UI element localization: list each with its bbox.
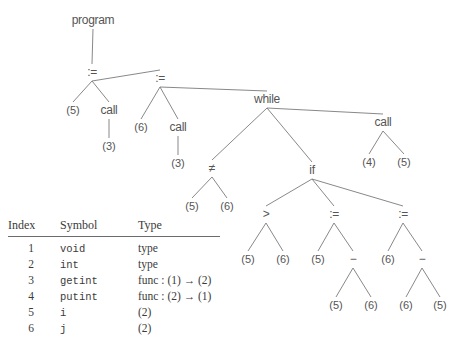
tree-node-leaf-6-b: (6) <box>220 201 233 212</box>
tree-edge-call-3-to-leaf-4-a <box>369 131 383 154</box>
tree-edge-minus-1-to-leaf-6-d <box>353 268 371 297</box>
cell-symbol: j <box>60 321 138 337</box>
tree-node-call-1: call <box>101 104 118 116</box>
cell-type: type <box>138 257 220 273</box>
tree-node-leaf-6-f: (6) <box>399 300 412 311</box>
cell-type: type <box>138 237 220 257</box>
tree-node-leaf-6-d: (6) <box>364 300 377 311</box>
cell-index: 5 <box>8 305 60 321</box>
tree-node-leaf-5-b: (5) <box>185 201 198 212</box>
tree-edge-assign-1-to-assign-2 <box>92 70 160 81</box>
cell-symbol: void <box>60 237 138 257</box>
tree-node-leaf-5-d: (5) <box>241 254 254 265</box>
tree-node-assign-4: := <box>398 208 408 220</box>
tree-node-call-2: call <box>170 121 187 133</box>
cell-index: 6 <box>8 321 60 337</box>
tree-node-program: program <box>72 14 115 26</box>
tree-edge-gt-to-leaf-6-c <box>266 223 283 251</box>
column-header-type: Type <box>138 218 220 237</box>
tree-node-assign-2: := <box>155 72 165 84</box>
tree-edge-while-to-if <box>267 108 312 162</box>
tree-node-leaf-5-a: (5) <box>66 105 79 116</box>
tree-edge-assign-2-to-while <box>160 87 267 91</box>
tree-node-leaf-6-c: (6) <box>276 254 289 265</box>
tree-node-leaf-5-g: (5) <box>433 300 446 311</box>
tree-edge-while-to-call-3 <box>267 108 383 114</box>
tree-node-leaf-4-a: (4) <box>362 157 375 168</box>
column-header-index: Index <box>8 218 60 237</box>
cell-index: 1 <box>8 237 60 257</box>
symbol-table: Index Symbol Type 1voidtype2inttype3geti… <box>8 218 220 337</box>
table-row: 6j(2) <box>8 321 220 337</box>
symbol-table-grid: Index Symbol Type 1voidtype2inttype3geti… <box>8 218 220 337</box>
tree-node-call-3: call <box>375 116 392 128</box>
tree-edge-minus-1-to-leaf-5-f <box>336 268 353 297</box>
tree-edge-gt-to-leaf-5-d <box>248 223 266 251</box>
cell-symbol: getint <box>60 273 138 289</box>
column-header-symbol: Symbol <box>60 218 138 237</box>
tree-node-leaf-3-b: (3) <box>171 158 184 169</box>
symbol-table-header-row: Index Symbol Type <box>8 218 220 237</box>
tree-edge-assign-3-to-leaf-5-e <box>318 223 334 251</box>
tree-edge-call-3-to-leaf-5-c <box>383 131 404 154</box>
tree-node-leaf-5-e: (5) <box>311 254 324 265</box>
table-row: 4putintfunc : (2) → (1) <box>8 289 220 305</box>
tree-node-leaf-3-a: (3) <box>102 141 115 152</box>
cell-type: func : (1) → (2) <box>138 273 220 289</box>
cell-symbol: int <box>60 257 138 273</box>
symbol-table-head: Index Symbol Type <box>8 218 220 237</box>
tree-edge-neq-to-leaf-6-b <box>212 177 227 198</box>
tree-node-assign-1: := <box>87 66 97 78</box>
tree-edge-assign-4-to-leaf-6-e <box>388 223 403 251</box>
cell-index: 2 <box>8 257 60 273</box>
tree-node-leaf-6-a: (6) <box>134 122 147 133</box>
tree-edge-assign-4-to-minus-2 <box>403 223 422 251</box>
cell-type: (2) <box>138 305 220 321</box>
tree-node-minus-1: − <box>350 253 357 265</box>
tree-edge-assign-2-to-call-2 <box>160 87 178 119</box>
tree-node-if: if <box>309 164 314 176</box>
cell-symbol: putint <box>60 289 138 305</box>
tree-edge-program-to-assign-1 <box>92 29 93 64</box>
tree-node-leaf-5-f: (5) <box>329 300 342 311</box>
tree-edge-if-to-assign-4 <box>312 179 403 206</box>
tree-edge-neq-to-leaf-5-b <box>192 177 212 198</box>
tree-node-leaf-6-e: (6) <box>381 254 394 265</box>
cell-symbol: i <box>60 305 138 321</box>
cell-index: 3 <box>8 273 60 289</box>
table-row: 1voidtype <box>8 237 220 257</box>
tree-node-leaf-5-c: (5) <box>397 157 410 168</box>
tree-node-while: while <box>254 93 280 105</box>
tree-node-minus-2: − <box>419 253 426 265</box>
tree-edge-assign-1-to-leaf-5-a <box>73 81 92 102</box>
syntax-tree-figure: program:=(5)call(3):=(6)call(3)while≠(5)… <box>0 0 464 350</box>
tree-node-neq: ≠ <box>209 162 215 174</box>
table-row: 3getintfunc : (1) → (2) <box>8 273 220 289</box>
tree-node-assign-3: := <box>329 208 339 220</box>
tree-edge-assign-2-to-leaf-6-a <box>141 87 160 119</box>
tree-edge-minus-2-to-leaf-5-g <box>422 268 440 297</box>
tree-edge-if-to-assign-3 <box>312 179 334 206</box>
tree-node-gt: > <box>263 208 270 220</box>
table-row: 2inttype <box>8 257 220 273</box>
tree-edge-assign-1-to-call-1 <box>92 81 109 102</box>
tree-edge-minus-2-to-leaf-6-f <box>406 268 422 297</box>
tree-edge-if-to-gt <box>266 179 312 206</box>
tree-edge-while-to-neq <box>212 108 267 160</box>
cell-type: func : (2) → (1) <box>138 289 220 305</box>
table-row: 5i(2) <box>8 305 220 321</box>
tree-edge-assign-3-to-minus-1 <box>334 223 353 251</box>
cell-index: 4 <box>8 289 60 305</box>
symbol-table-body: 1voidtype2inttype3getintfunc : (1) → (2)… <box>8 237 220 337</box>
cell-type: (2) <box>138 321 220 337</box>
